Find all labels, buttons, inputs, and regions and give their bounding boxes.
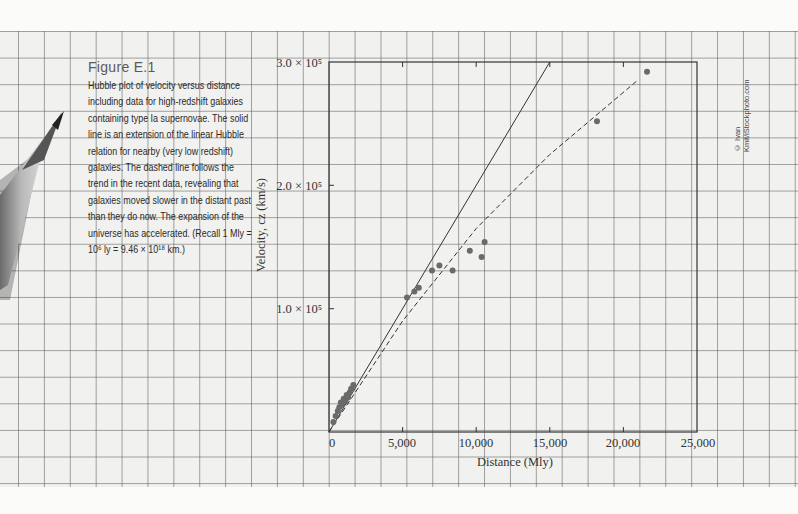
photo-credit: © Ivan Kmit/iStockphoto.com: [733, 60, 751, 152]
x-tick-labels: 0 5,000 10,000 15,000 20,000 25,000: [329, 436, 715, 450]
svg-text:20,000: 20,000: [606, 436, 640, 450]
y-axis-label: Velocity, cz (km/s): [254, 178, 268, 272]
svg-text:3.0 × 10⁵: 3.0 × 10⁵: [276, 56, 322, 70]
svg-text:15,000: 15,000: [533, 436, 567, 450]
y-tick-labels: 1.0 × 10⁵ 2.0 × 10⁵ 3.0 × 10⁵: [276, 56, 322, 316]
svg-text:0: 0: [329, 436, 335, 450]
svg-text:5,000: 5,000: [388, 436, 416, 450]
svg-text:25,000: 25,000: [681, 436, 715, 450]
svg-text:1.0 × 10⁵: 1.0 × 10⁵: [276, 302, 322, 316]
hubble-linear-line: [329, 62, 550, 432]
x-tick-marks: [329, 62, 623, 432]
svg-text:10,000: 10,000: [459, 436, 493, 450]
hubble-plot: 0 5,000 10,000 15,000 20,000 25,000 Dist…: [0, 0, 798, 514]
svg-text:2.0 × 10⁵: 2.0 × 10⁵: [276, 179, 322, 193]
data-points: [330, 69, 650, 425]
plot-frame: [329, 62, 697, 432]
x-axis-label: Distance (Mly): [477, 455, 553, 469]
